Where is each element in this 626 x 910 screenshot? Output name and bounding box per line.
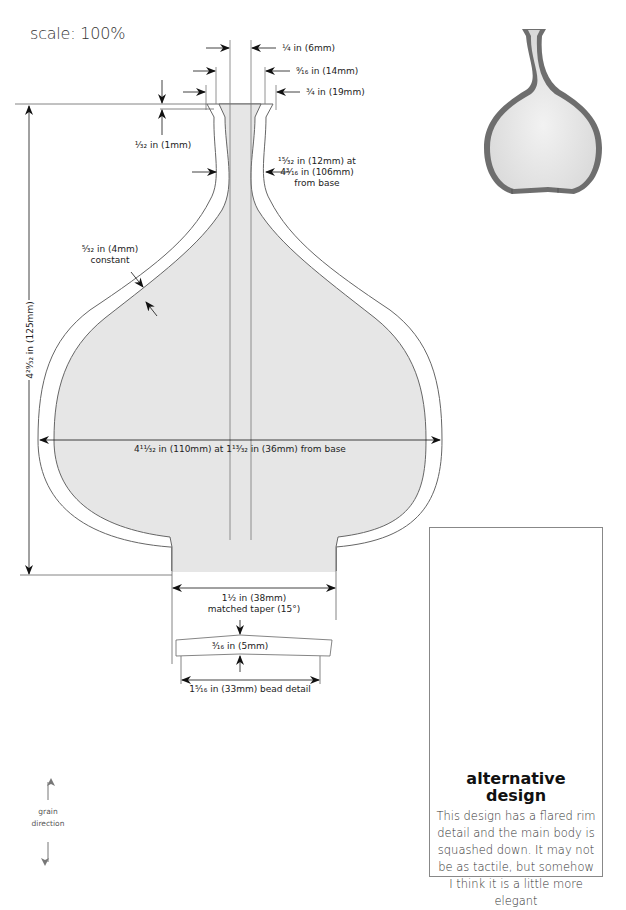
- foot-dimension-line2: matched taper (15°): [208, 604, 300, 614]
- grain-label-line1: grain: [22, 806, 74, 818]
- alternative-title-line2: design: [430, 787, 602, 804]
- bead-thickness-dimension: ³⁄₁₆ in (5mm): [212, 641, 269, 651]
- wall-dimension-line2: constant: [90, 255, 130, 265]
- grain-label-line2: direction: [22, 818, 74, 830]
- vase-profile: [38, 104, 442, 572]
- vase-preview-render: [484, 29, 602, 194]
- height-dimension: 4²⁹⁄₃₂ in (125mm): [25, 301, 35, 378]
- alternative-design-description: This design has a flared rim detail and …: [436, 808, 596, 910]
- rim-lip-dimension: ¹⁄₃₂ in (1mm): [135, 140, 192, 150]
- bead-width-dimension: 1⁵⁄₁₆ in (33mm) bead detail: [189, 684, 310, 694]
- alternative-design-panel: alternative design This design has a fla…: [429, 527, 603, 877]
- grain-direction-label: grain direction: [22, 806, 74, 830]
- foot-dimension-line1: 1½ in (38mm): [222, 593, 286, 603]
- wall-dimension-line1: ⁵⁄₃₂ in (4mm): [82, 244, 139, 254]
- alternative-title-line1: alternative: [430, 770, 602, 787]
- neck-dimension-line1: ¹⁵⁄₃₂ in (12mm) at: [278, 156, 356, 166]
- rim-outer-dimension: ¾ in (19mm): [306, 87, 365, 97]
- rim-mid-dimension: ⁹⁄₁₆ in (14mm): [296, 66, 358, 76]
- rim-inner-dimension: ¼ in (6mm): [282, 43, 335, 53]
- neck-dimension-line3: from base: [294, 178, 340, 188]
- width-dimension: 4¹¹⁄₃₂ in (110mm) at 1¹³⁄₃₂ in (36mm) fr…: [134, 444, 346, 454]
- alternative-design-title: alternative design: [430, 770, 602, 804]
- neck-dimension-line2: 4³⁄₁₆ in (106mm): [280, 167, 354, 177]
